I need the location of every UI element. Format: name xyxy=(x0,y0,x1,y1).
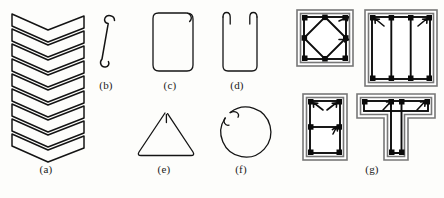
zigzag-stirrup-drawing xyxy=(8,6,92,162)
caption-g: (g) xyxy=(352,163,392,175)
zigzag-unit-group xyxy=(12,14,84,162)
triangular-stirrup-drawing xyxy=(134,108,198,160)
caption-e: (e) xyxy=(144,163,184,175)
figure-root: (a) (b) (c) (d) xyxy=(0,0,444,198)
caption-b: (b) xyxy=(86,79,126,91)
open-u-stirrup-drawing xyxy=(217,10,263,76)
panel-a-zigzag-stirrup xyxy=(8,6,92,162)
caption-f: (f) xyxy=(221,163,261,175)
section-tee xyxy=(357,94,435,160)
circular-spiral-hoop-drawing xyxy=(212,104,274,164)
panel-c-closed-hoop xyxy=(150,10,198,76)
section-group-drawing xyxy=(295,8,440,163)
section-square-diamond-tie xyxy=(297,10,353,66)
caption-d: (d) xyxy=(217,79,257,91)
section-rect-multileg-tie xyxy=(365,10,437,86)
caption-c: (c) xyxy=(150,79,190,91)
closed-rectangular-hoop-drawing xyxy=(150,10,198,76)
caption-a: (a) xyxy=(26,163,66,175)
panel-d-u-stirrup xyxy=(217,10,263,76)
section-tall-rect-crosstie xyxy=(303,94,347,160)
panel-e-triangular-stirrup xyxy=(134,108,198,160)
panel-f-circular-hoop xyxy=(212,104,274,164)
crosstie-hook-drawing xyxy=(92,12,128,74)
panel-g-sections xyxy=(295,8,440,163)
panel-b-crosstie-hook xyxy=(92,12,128,74)
